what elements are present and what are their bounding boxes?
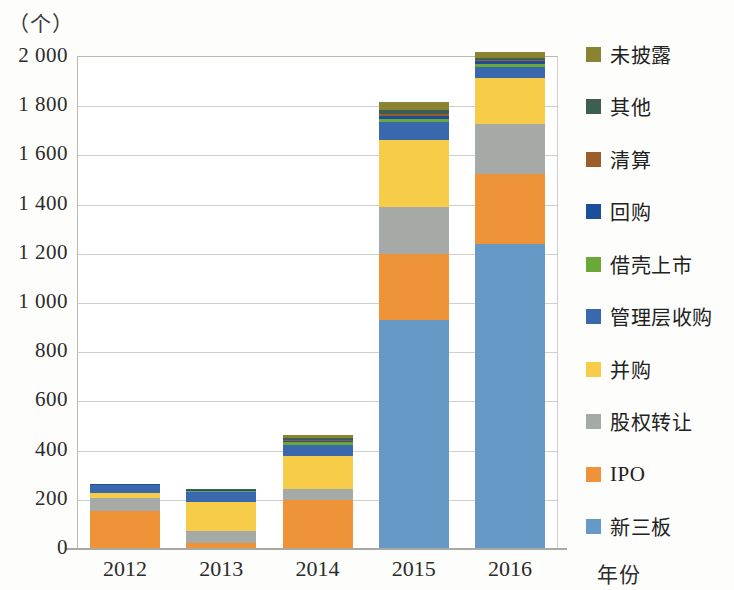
- bar-segment-管理层收购: [283, 445, 353, 455]
- legend-label: 其他: [610, 92, 651, 121]
- legend-item-清算[interactable]: 清算: [586, 133, 734, 186]
- bar-segment-并购: [283, 456, 353, 489]
- y-tick-label: 400: [2, 437, 68, 462]
- y-tick-label: 2 000: [2, 43, 68, 68]
- bar-segment-IPO: [186, 543, 256, 548]
- legend-label: 新三板: [610, 512, 672, 541]
- legend-item-IPO[interactable]: IPO: [586, 448, 734, 501]
- legend-label: 未披露: [610, 40, 672, 69]
- y-tick-label: 1 400: [2, 191, 68, 216]
- bar-segment-并购: [186, 502, 256, 531]
- bar-segment-IPO: [283, 500, 353, 548]
- legend-label: 清算: [610, 145, 651, 174]
- bar-segment-未披露: [379, 102, 449, 111]
- bar-segment-股权转让: [283, 489, 353, 500]
- legend-swatch-icon: [586, 362, 601, 377]
- x-tick-label: 2015: [359, 556, 469, 582]
- bar-segment-管理层收购: [90, 485, 160, 492]
- bar-2016: [475, 52, 545, 548]
- x-axis-line: [66, 548, 567, 550]
- bar-segment-股权转让: [90, 498, 160, 512]
- legend-swatch-icon: [586, 257, 601, 272]
- bar-segment-并购: [379, 140, 449, 208]
- chart-legend: 未披露其他清算回购借壳上市管理层收购并购股权转让IPO新三板: [586, 28, 734, 553]
- legend-swatch-icon: [586, 204, 601, 219]
- bar-segment-IPO: [475, 174, 545, 244]
- legend-label: 股权转让: [610, 407, 692, 436]
- bar-segment-IPO: [90, 511, 160, 548]
- x-tick-label: 2012: [70, 556, 180, 582]
- legend-swatch-icon: [586, 309, 601, 324]
- y-tick-label: 800: [2, 338, 68, 363]
- bar-2013: [186, 489, 256, 548]
- y-tick-label: 1 600: [2, 141, 68, 166]
- legend-item-其他[interactable]: 其他: [586, 81, 734, 134]
- bar-segment-新三板: [475, 244, 545, 548]
- legend-item-管理层收购[interactable]: 管理层收购: [586, 291, 734, 344]
- x-axis-title: 年份: [597, 558, 641, 588]
- legend-label: 借壳上市: [610, 250, 692, 279]
- bar-segment-股权转让: [379, 207, 449, 254]
- y-tick-label: 1 200: [2, 240, 68, 265]
- bar-segment-股权转让: [186, 531, 256, 543]
- legend-label: 并购: [610, 355, 651, 384]
- y-tick-label: 0: [2, 535, 68, 560]
- legend-swatch-icon: [586, 467, 601, 482]
- bar-2012: [90, 484, 160, 548]
- x-tick-label: 2014: [263, 556, 373, 582]
- legend-label: IPO: [610, 462, 645, 487]
- bar-segment-股权转让: [475, 124, 545, 174]
- bar-2014: [283, 435, 353, 548]
- legend-swatch-icon: [586, 414, 601, 429]
- stacked-bar-chart: （个） 02004006008001 0001 2001 4001 6001 8…: [0, 0, 734, 590]
- y-axis-unit-label: （个）: [8, 7, 74, 37]
- y-tick-label: 600: [2, 387, 68, 412]
- legend-item-股权转让[interactable]: 股权转让: [586, 396, 734, 449]
- legend-item-回购[interactable]: 回购: [586, 186, 734, 239]
- bar-segment-管理层收购: [475, 67, 545, 78]
- bar-segment-管理层收购: [186, 492, 256, 502]
- bar-segment-新三板: [379, 320, 449, 548]
- y-tick-label: 1 000: [2, 289, 68, 314]
- bar-segment-并购: [475, 78, 545, 124]
- legend-item-借壳上市[interactable]: 借壳上市: [586, 238, 734, 291]
- x-tick-label: 2016: [455, 556, 565, 582]
- legend-swatch-icon: [586, 152, 601, 167]
- bar-segment-管理层收购: [379, 122, 449, 139]
- legend-item-未披露[interactable]: 未披露: [586, 28, 734, 81]
- bar-segment-IPO: [379, 254, 449, 320]
- legend-swatch-icon: [586, 519, 601, 534]
- bar-2015: [379, 102, 449, 548]
- legend-swatch-icon: [586, 47, 601, 62]
- legend-item-并购[interactable]: 并购: [586, 343, 734, 396]
- legend-label: 回购: [610, 197, 651, 226]
- y-tick-label: 1 800: [2, 92, 68, 117]
- legend-swatch-icon: [586, 99, 601, 114]
- y-tick-label: 200: [2, 486, 68, 511]
- x-tick-label: 2013: [166, 556, 276, 582]
- legend-label: 管理层收购: [610, 302, 713, 331]
- legend-item-新三板[interactable]: 新三板: [586, 501, 734, 554]
